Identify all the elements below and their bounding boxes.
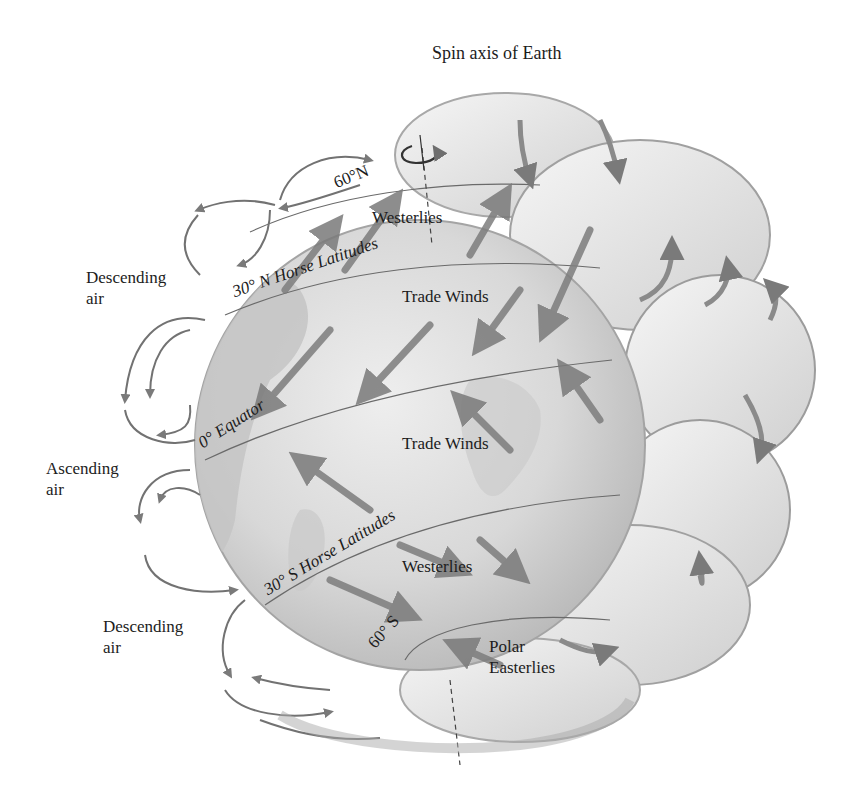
- wind-label-trade-winds-south: Trade Winds: [402, 434, 489, 453]
- wind-label-polar-easterlies-line2: Easterlies: [489, 658, 555, 677]
- cell-arrow-7: [700, 560, 702, 583]
- wind-label-polar-easterlies-line1: Polar: [489, 637, 525, 656]
- loop-hadley-s-outer: [139, 470, 190, 520]
- loop-hadley-s-inner: [160, 488, 200, 500]
- loop-ferrel-n-top: [198, 201, 275, 210]
- loop-hadley-n-inner: [150, 330, 190, 395]
- wind-label-westerlies-north: Westerlies: [372, 208, 442, 227]
- descending-air-bottom-line2: air: [103, 638, 121, 657]
- circulation-diagram: Spin axis of Earth Descending air Ascend…: [0, 0, 844, 800]
- loop-hadley-n-outer: [125, 318, 205, 400]
- loop-hadley-s-bottom: [145, 555, 235, 592]
- descending-air-bottom-line1: Descending: [103, 617, 183, 636]
- loop-polar-n-return: [282, 185, 360, 208]
- loop-ferrel-n: [240, 210, 270, 265]
- loop-ferrel-s-outer: [225, 690, 330, 716]
- ascending-air-line1: Ascending: [46, 459, 119, 478]
- diagram-canvas: [0, 0, 844, 800]
- descending-air-top-line1: Descending: [86, 268, 166, 287]
- loop-polar-s: [255, 678, 330, 690]
- spin-axis-label: Spin axis of Earth: [432, 44, 561, 63]
- loop-ferrel-n-outer: [185, 215, 200, 275]
- ascending-air-line2: air: [46, 480, 64, 499]
- wind-label-trade-winds-north: Trade Winds: [402, 287, 489, 306]
- wind-label-westerlies-south: Westerlies: [402, 557, 472, 576]
- loop-hadley-n-core: [160, 405, 190, 435]
- descending-air-top-line2: air: [86, 289, 104, 308]
- loop-ferrel-s: [223, 600, 245, 675]
